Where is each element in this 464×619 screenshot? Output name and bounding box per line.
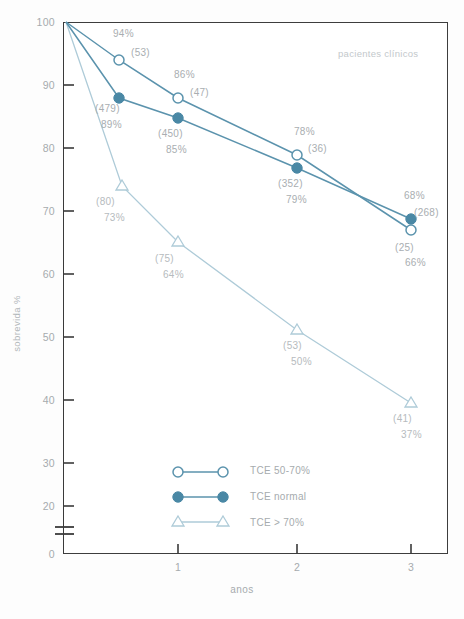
label-s3-p4-n: (41) [393,413,412,424]
label-s2-p2-n: (450) [158,128,183,139]
legend-item-tce-50-70[interactable]: TCE 50-70% [172,460,322,486]
label-s2-p4-n: (268) [414,207,439,218]
label-s1-p4-n: (25) [395,242,414,253]
legend-label-tce-gt-70: TCE > 70% [250,517,304,528]
legend-label-tce-normal: TCE normal [250,491,306,502]
series-tce-normal-markers [114,93,416,224]
label-s2-p2-pct: 85% [166,144,187,155]
label-s2-p1-n: (479) [95,103,120,114]
label-s3-p1-n: (80) [96,196,115,207]
label-s1-p3-pct: 78% [294,126,315,137]
label-s3-p4-pct: 37% [401,429,422,440]
label-s2-p3-n: (352) [278,178,303,189]
chart-legend: TCE 50-70% TCE normal TCE > 70% [172,460,322,538]
label-s3-p3-n: (53) [283,340,302,351]
label-s3-p1-pct: 73% [104,212,125,223]
label-s3-p2-pct: 64% [163,269,184,280]
label-s1-p1-n: (53) [131,47,150,58]
label-s2-p4-pct: 68% [404,190,425,201]
label-s1-p1-pct: 94% [113,28,134,39]
series-tce-gt-70-markers [116,180,417,407]
label-s3-p2-n: (75) [155,253,174,264]
series-tce-50-70-markers [114,55,416,235]
label-s1-p2-pct: 86% [174,69,195,80]
x-tick-marks [178,544,411,554]
label-s3-p3-pct: 50% [291,356,312,367]
y-axis-break-icon [55,527,74,534]
y-tick-marks [63,85,74,506]
chart-canvas: 100 90 80 70 60 50 40 30 20 0 1 2 3 sobr… [0,0,464,619]
legend-item-tce-gt-70[interactable]: TCE > 70% [172,512,322,538]
label-s1-p3-n: (36) [308,143,327,154]
label-s1-p4-pct: 66% [405,257,426,268]
label-s2-p1-pct: 89% [101,119,122,130]
legend-label-tce-50-70: TCE 50-70% [250,465,310,476]
label-s1-p2-n: (47) [190,87,209,98]
label-s2-p3-pct: 79% [286,194,307,205]
legend-item-tce-normal[interactable]: TCE normal [172,486,322,512]
